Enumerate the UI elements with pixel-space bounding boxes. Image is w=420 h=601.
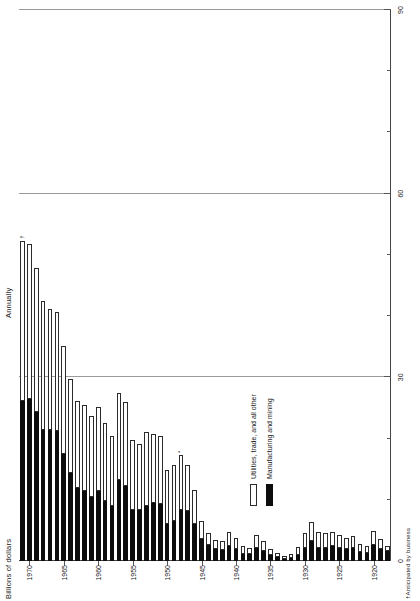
value-tick-10	[387, 499, 391, 500]
bar-1925	[337, 535, 342, 561]
bar-segment-utilities-1921	[365, 546, 370, 553]
bar-segment-manufacturing-1968	[41, 430, 46, 561]
bar-segment-manufacturing-1963	[75, 488, 80, 561]
bar-segment-utilities-1949	[172, 465, 177, 521]
bar-segment-utilities-1922	[358, 544, 363, 552]
bar-1970	[27, 244, 32, 561]
bar-segment-manufacturing-1943	[213, 549, 218, 561]
bar-1964	[68, 379, 73, 561]
bar-segment-manufacturing-1919	[378, 549, 383, 561]
bar-segment-manufacturing-1969	[34, 412, 39, 561]
bar-segment-utilities-1924	[344, 538, 349, 549]
year-label-1920: 1920	[370, 565, 377, 581]
legend-label-dark: Manufacturing and mining	[266, 398, 273, 479]
bar-segment-manufacturing-1948	[179, 510, 184, 561]
bar-1926	[330, 532, 335, 561]
bar-segment-utilities-1954	[137, 444, 142, 510]
bar-segment-manufacturing-1947	[185, 511, 190, 561]
bar-segment-utilities-1943	[213, 540, 218, 549]
bar-1969	[34, 268, 39, 561]
year-label-1940: 1940	[233, 565, 240, 581]
bar-segment-utilities-1932	[289, 554, 294, 558]
bar-segment-utilities-1918	[385, 546, 390, 552]
bar-1933	[282, 556, 287, 562]
year-tick-1925	[339, 561, 340, 566]
bar-segment-manufacturing-1939	[241, 554, 246, 561]
bar-segment-manufacturing-1944	[206, 545, 211, 561]
value-tick-60	[384, 193, 391, 194]
bar-segment-utilities-1967	[48, 309, 53, 430]
bar-1958	[110, 436, 115, 561]
bar-segment-manufacturing-1953	[144, 506, 149, 561]
bar-1949	[172, 465, 177, 561]
value-tick-50	[387, 254, 391, 255]
bar-1961	[89, 416, 94, 561]
footnote: †Anticipated by business	[405, 528, 411, 599]
bar-segment-utilities-1955	[130, 440, 135, 509]
year-tick-1960	[98, 561, 99, 566]
bar-1942	[220, 541, 225, 561]
bar-segment-utilities-1931	[296, 547, 301, 555]
bar-segment-manufacturing-1965	[61, 454, 66, 561]
bar-segment-manufacturing-1956	[123, 486, 128, 561]
y-axis-title: Billions of dollars	[4, 539, 13, 599]
bar-segment-utilities-1951	[158, 436, 163, 504]
bar-1929	[309, 522, 314, 561]
bar-1965	[61, 346, 66, 561]
year-tick-1940	[236, 561, 237, 566]
bar-segment-utilities-1919	[378, 539, 383, 549]
bar-segment-utilities-1942	[220, 541, 225, 550]
year-label-1950: 1950	[164, 565, 171, 581]
bar-segment-manufacturing-1927	[323, 548, 328, 561]
bar-1928	[316, 532, 321, 561]
bar-segment-utilities-1944	[206, 533, 211, 545]
bar-segment-manufacturing-1941	[227, 546, 232, 561]
bar-1945	[199, 521, 204, 561]
bar-segment-utilities-1953	[144, 432, 149, 506]
value-tick-label-30: 30	[397, 373, 404, 381]
bar-1935	[268, 549, 273, 561]
bar-segment-manufacturing-1920	[371, 545, 376, 561]
bar-segment-utilities-1965	[61, 346, 66, 454]
bar-segment-utilities-1920	[371, 531, 376, 545]
bar-segment-manufacturing-1930	[303, 548, 308, 561]
bar-segment-utilities-1936	[261, 541, 266, 551]
bar-1953	[144, 432, 149, 561]
bar-1954	[137, 444, 142, 561]
bar-1932	[289, 554, 294, 561]
bar-segment-manufacturing-1918	[385, 551, 390, 561]
bar-segment-manufacturing-1966	[55, 431, 60, 561]
bar-segment-utilities-1940	[234, 538, 239, 549]
bar-segment-manufacturing-1940	[234, 549, 239, 561]
marker-1948: *	[178, 451, 183, 453]
bar-segment-utilities-1961	[89, 416, 94, 497]
bar-segment-manufacturing-1967	[48, 430, 53, 561]
bar-1967	[48, 309, 53, 561]
bar-1957	[117, 393, 122, 561]
bar-segment-utilities-1950	[165, 470, 170, 524]
bar-1924	[344, 538, 349, 561]
bar-segment-manufacturing-1924	[344, 549, 349, 561]
value-tick-label-0: 0	[397, 559, 404, 563]
bar-segment-utilities-1928	[316, 532, 321, 547]
bar-segment-manufacturing-1959	[103, 501, 108, 561]
marker-1971: †	[20, 235, 25, 238]
bar-1938	[247, 548, 252, 561]
bar-1931	[296, 547, 301, 561]
bar-1940	[234, 538, 239, 561]
bar-segment-utilities-1952	[151, 434, 156, 504]
bar-segment-utilities-1958	[110, 436, 115, 506]
year-label-1945: 1945	[198, 565, 205, 581]
value-tick-40	[387, 315, 391, 316]
bar-segment-utilities-1968	[41, 301, 46, 430]
bar-segment-utilities-1969	[34, 268, 39, 412]
gridline-90	[19, 9, 391, 10]
gridline-60	[19, 193, 391, 194]
bar-segment-manufacturing-1932	[289, 558, 294, 561]
bar-1950	[165, 470, 170, 561]
bar-segment-utilities-1930	[303, 533, 308, 548]
legend-label-light: Utilities, trade, and all other	[250, 394, 257, 479]
bar-1948	[179, 455, 184, 561]
bar-segment-manufacturing-1928	[316, 548, 321, 561]
bar-segment-utilities-1923	[351, 536, 356, 548]
